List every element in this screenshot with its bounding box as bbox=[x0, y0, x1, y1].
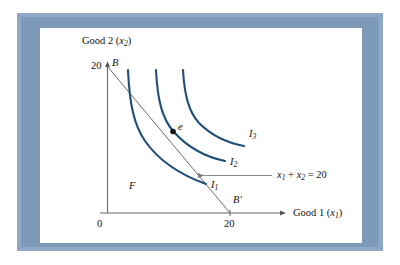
curve-label-i2: I2 bbox=[230, 157, 237, 168]
indifference-curve-i3 bbox=[183, 70, 244, 146]
x-axis-label: Good 1 (x1) bbox=[293, 208, 342, 219]
curve-label-i2-subscript: 2 bbox=[234, 160, 238, 169]
x-axis-tick-label-20: 20 bbox=[224, 219, 235, 230]
indifference-curve-i2 bbox=[156, 70, 225, 161]
origin-label: 0 bbox=[97, 219, 102, 230]
curve-label-i1: I1 bbox=[211, 180, 218, 191]
curve-label-i1-subscript: 1 bbox=[215, 183, 219, 192]
plot-graphics bbox=[0, 0, 400, 265]
curve-label-i3-subscript: 3 bbox=[253, 132, 257, 141]
budget-endpoint-label-b-prime: B' bbox=[233, 195, 242, 206]
equilibrium-label-e: e bbox=[178, 122, 183, 133]
equilibrium-point-e bbox=[170, 129, 176, 135]
feasible-region-label-f: F bbox=[129, 181, 135, 192]
indifference-curve-i1 bbox=[128, 70, 206, 184]
figure-container: Good 2 (x2) Good 1 (x1) 20 20 0 B B' e F… bbox=[0, 0, 400, 265]
budget-equation-annotation: x1 + x2 = 20 bbox=[277, 170, 327, 181]
y-axis-tick-label-20: 20 bbox=[91, 61, 102, 72]
curve-label-i3: I3 bbox=[249, 129, 256, 140]
budget-endpoint-label-b: B bbox=[112, 58, 118, 69]
y-axis-label: Good 2 (x2) bbox=[82, 36, 131, 47]
